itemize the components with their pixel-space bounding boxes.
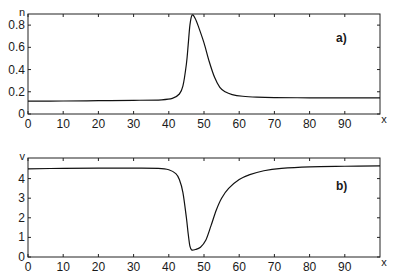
panel-label: a) — [336, 31, 347, 45]
y-tick-label: 0 — [18, 107, 25, 121]
x-tick-label: 40 — [162, 117, 176, 131]
x-tick-label: 10 — [57, 117, 71, 131]
x-tick-label: 20 — [92, 260, 106, 274]
x-tick-label: 40 — [162, 260, 176, 274]
y-tick-label: 4 — [18, 172, 25, 186]
x-tick-label: 60 — [233, 117, 247, 131]
x-tick-label: 70 — [268, 117, 282, 131]
y-tick-label: 0.6 — [8, 40, 25, 54]
x-tick-label: 80 — [303, 117, 317, 131]
x-axis-label: x — [381, 113, 387, 125]
y-tick-label: 2 — [18, 211, 25, 225]
x-tick-label: 0 — [25, 260, 32, 274]
x-tick-label: 0 — [25, 117, 32, 131]
plot-frame — [28, 14, 380, 114]
x-tick-label: 90 — [338, 117, 352, 131]
x-tick-label: 50 — [197, 260, 211, 274]
x-tick-label: 60 — [233, 260, 247, 274]
y-axis-label: n — [19, 6, 25, 18]
x-tick-label: 50 — [197, 117, 211, 131]
y-tick-label: 0 — [18, 250, 25, 264]
x-tick-label: 30 — [127, 260, 141, 274]
panel-b-v-plot: 010203040506070809001234vxb) — [18, 150, 387, 274]
y-tick-label: 0.4 — [8, 63, 25, 77]
x-tick-label: 80 — [303, 260, 317, 274]
y-tick-label: 0.2 — [8, 85, 25, 99]
plot-frame — [28, 158, 380, 257]
figure: 010203040506070809000.20.40.60.8nxa) 010… — [0, 0, 393, 279]
y-tick-label: 1 — [18, 230, 25, 244]
x-tick-label: 10 — [57, 260, 71, 274]
series-line-n — [28, 15, 380, 101]
y-tick-label: 3 — [18, 191, 25, 205]
x-tick-label: 90 — [338, 260, 352, 274]
series-line-v — [28, 166, 380, 250]
y-tick-label: 0.8 — [8, 18, 25, 32]
panel-a-n-plot: 010203040506070809000.20.40.60.8nxa) — [8, 6, 387, 131]
x-tick-label: 30 — [127, 117, 141, 131]
x-tick-label: 20 — [92, 117, 106, 131]
x-tick-label: 70 — [268, 260, 282, 274]
y-axis-label: v — [20, 150, 26, 162]
x-axis-label: x — [381, 256, 387, 268]
panel-label: b) — [336, 179, 347, 193]
